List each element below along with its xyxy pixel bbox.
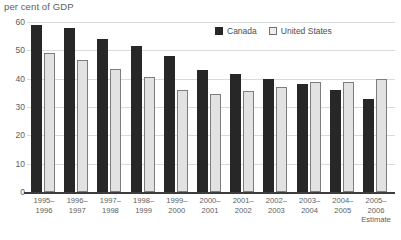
bar-canada <box>164 56 175 192</box>
bar-group: 2002– 2003 <box>261 22 291 192</box>
bar-group: 1997– 1998 <box>95 22 125 192</box>
bar-canada <box>31 25 42 192</box>
bar-group: 2004– 2005 <box>328 22 358 192</box>
y-axis-tick-label: 10 <box>3 159 25 169</box>
bar-group: 1996– 1997 <box>62 22 92 192</box>
y-axis-tick-label: 60 <box>3 17 25 27</box>
plot-area: 1995– 19961996– 19971997– 19981998– 1999… <box>27 22 395 192</box>
bar-united-states <box>77 60 88 192</box>
bar-canada <box>330 90 341 192</box>
bar-united-states <box>376 79 387 192</box>
bar-canada <box>263 79 274 192</box>
bar-united-states <box>343 82 354 193</box>
bar-united-states <box>110 69 121 192</box>
bar-canada <box>363 99 374 193</box>
bar-canada <box>97 39 108 192</box>
x-axis-tick-label: 2005– 2006 Estimate <box>356 196 396 225</box>
y-axis-tick-label: 30 <box>3 102 25 112</box>
y-axis: 0102030405060 <box>0 0 25 240</box>
bar-group: 2000– 2001 <box>195 22 225 192</box>
bar-group: 1995– 1996 <box>29 22 59 192</box>
bar-group: 2005– 2006 Estimate <box>361 22 391 192</box>
bar-group: 1998– 1999 <box>129 22 159 192</box>
bar-united-states <box>177 90 188 192</box>
bar-canada <box>230 74 241 192</box>
bar-united-states <box>276 87 287 192</box>
bar-canada <box>64 28 75 192</box>
y-axis-tick-label: 0 <box>3 187 25 197</box>
bar-chart: per cent of GDP Canada United States 010… <box>0 0 401 240</box>
bar-group: 1999– 2000 <box>162 22 192 192</box>
bar-group: 2003– 2004 <box>295 22 325 192</box>
bar-canada <box>197 70 208 192</box>
bar-united-states <box>144 77 155 192</box>
bar-united-states <box>44 53 55 192</box>
y-axis-tick-label: 40 <box>3 74 25 84</box>
bar-united-states <box>210 94 221 192</box>
bar-canada <box>297 84 308 192</box>
x-axis-line <box>24 192 395 194</box>
y-axis-tick-label: 20 <box>3 130 25 140</box>
y-axis-tick-label: 50 <box>3 45 25 55</box>
bar-group: 2001– 2002 <box>228 22 258 192</box>
bar-united-states <box>310 82 321 193</box>
bar-united-states <box>243 91 254 192</box>
bar-canada <box>131 46 142 192</box>
